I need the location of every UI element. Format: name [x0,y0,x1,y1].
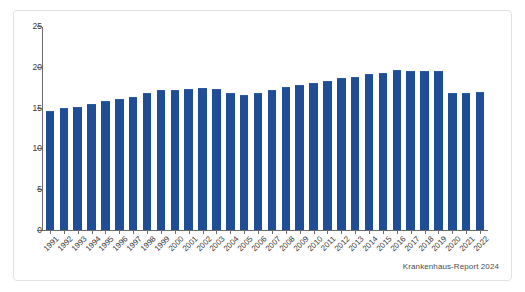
y-axis-tick-label: 20 [16,63,42,72]
x-axis-tick [64,231,65,234]
x-axis-tick [438,231,439,234]
y-axis-tick-label: 25 [16,22,42,31]
bar [406,71,415,230]
y-axis-tick-label-wrap: 20 [0,67,42,68]
x-axis-tick [175,231,176,234]
bar [393,70,402,230]
bar [476,92,485,230]
x-axis-tick [397,231,398,234]
x-axis-tick [355,231,356,234]
y-axis-tick-label-wrap: 15 [0,108,42,109]
x-axis-tick [216,231,217,234]
x-axis-tick [50,231,51,234]
x-axis-tick [314,231,315,234]
x-axis-tick [411,231,412,234]
bar [73,107,82,230]
bar [268,90,277,230]
x-axis-tick [286,231,287,234]
bar [434,71,443,230]
y-axis-tick-label: 0 [16,226,42,235]
bar [309,83,318,230]
bar [115,99,124,230]
y-axis-tick-label-wrap: 10 [0,148,42,149]
x-axis-tick [230,231,231,234]
bar [448,93,457,230]
x-axis-tick [147,231,148,234]
x-axis-tick [480,231,481,234]
x-axis-tick [327,231,328,234]
source-note: Krankenhaus-Report 2024 [403,262,499,271]
bar [212,89,221,230]
y-axis-tick-label-wrap: 0 [0,230,42,231]
bar [254,93,263,230]
x-axis-tick [189,231,190,234]
bar [129,97,138,230]
chart-figure: 0510152025 19911992199319941995199619971… [0,0,525,292]
y-axis-tick-label: 10 [16,144,42,153]
x-axis-tick [425,231,426,234]
bar [226,93,235,230]
bar [60,108,69,230]
x-axis-tick [203,231,204,234]
bar [282,87,291,230]
bar [46,111,55,230]
x-axis-tick [258,231,259,234]
x-axis-tick [466,231,467,234]
bar [420,71,429,230]
bar [462,93,471,230]
bar [323,81,332,230]
x-axis-tick [133,231,134,234]
bar [337,78,346,230]
x-axis-tick [105,231,106,234]
bar [351,77,360,230]
x-axis-tick [369,231,370,234]
y-axis-tick-label-wrap: 5 [0,189,42,190]
bar [379,73,388,230]
bar [295,85,304,230]
plot-area [43,26,487,230]
y-axis-tick-label: 5 [16,185,42,194]
bar [143,93,152,230]
x-axis-tick [300,231,301,234]
y-axis-tick-label: 15 [16,104,42,113]
bar [198,88,207,230]
bar [157,90,166,230]
x-axis-tick [119,231,120,234]
bar [240,95,249,230]
bar [365,74,374,230]
y-axis-tick-label-wrap: 25 [0,26,42,27]
bar [101,101,110,230]
bar [171,90,180,230]
x-axis-line [42,230,488,231]
x-axis-tick [161,231,162,234]
x-axis-tick [452,231,453,234]
x-axis-tick [92,231,93,234]
x-axis-tick [383,231,384,234]
bar [184,89,193,230]
x-axis-tick [78,231,79,234]
x-axis-tick [272,231,273,234]
x-axis-tick [341,231,342,234]
x-axis-tick [244,231,245,234]
bar [87,104,96,230]
